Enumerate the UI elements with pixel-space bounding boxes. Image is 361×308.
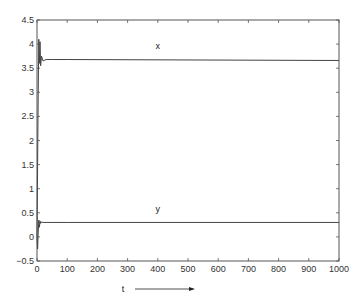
y-tick-label: 3 [29, 87, 34, 97]
line-chart: −0.500.511.522.533.544.5 010020030040050… [0, 0, 361, 308]
y-tick-label: 4 [29, 39, 34, 49]
y-tick-label: 2 [29, 136, 34, 146]
y-tick-label: 1 [29, 184, 34, 194]
x-axis-label-group: t [122, 284, 195, 294]
x-tick-label: 1000 [329, 264, 349, 274]
y-tick-label: −0.5 [16, 256, 34, 266]
x-tick-label: 900 [301, 264, 316, 274]
x-tick-label: 800 [271, 264, 286, 274]
x-tick-label: 400 [150, 264, 165, 274]
x-tick-label: 100 [60, 264, 75, 274]
series-label-x: x [156, 41, 161, 51]
y-tick-label: 2.5 [21, 111, 34, 121]
x-axis-label: t [122, 284, 125, 294]
y-tick-label: 0 [29, 232, 34, 242]
plot-area [37, 20, 339, 261]
x-tick-label: 600 [211, 264, 226, 274]
y-tick-label: 3.5 [21, 63, 34, 73]
x-tick-label: 300 [120, 264, 135, 274]
x-tick-label: 700 [241, 264, 256, 274]
x-tick-label: 200 [90, 264, 105, 274]
y-tick-label: 0.5 [21, 208, 34, 218]
time-arrow-head-icon [189, 287, 195, 291]
series-label-y: y [156, 204, 161, 214]
x-tick-label: 0 [34, 264, 39, 274]
y-tick-label: 1.5 [21, 160, 34, 170]
y-tick-label: 4.5 [21, 15, 34, 25]
x-tick-label: 500 [180, 264, 195, 274]
